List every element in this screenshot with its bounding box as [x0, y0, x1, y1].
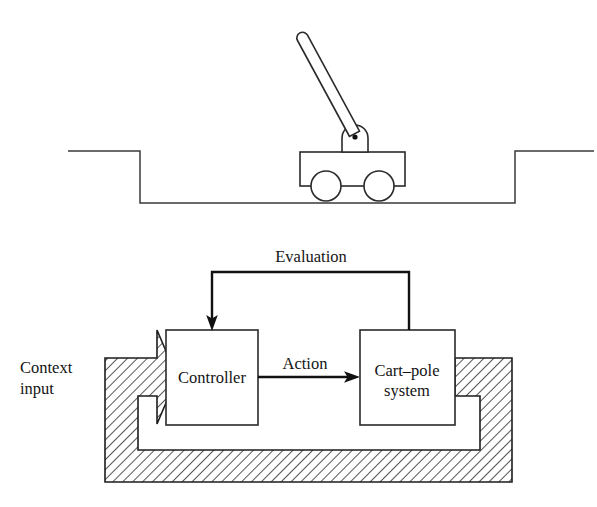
pole	[297, 32, 360, 136]
evaluation-label: Evaluation	[275, 247, 346, 266]
action-label: Action	[283, 354, 328, 373]
block-controller-label: Controller	[178, 368, 246, 387]
cart-wheel-right	[364, 171, 394, 201]
figure-root: Controller Cart–pole system Evaluation A…	[0, 0, 597, 507]
control-block-diagram: Controller Cart–pole system Evaluation A…	[20, 247, 512, 482]
cart-wheel-left	[311, 171, 341, 201]
figure-canvas: Controller Cart–pole system Evaluation A…	[0, 0, 597, 507]
context-input-label-line2: input	[20, 379, 54, 398]
context-input-label-line1: Context	[20, 358, 73, 377]
block-cart-pole-system-label-line1: Cart–pole	[374, 361, 439, 380]
cart-pole-illustration	[68, 32, 594, 203]
evaluation-path	[212, 272, 409, 330]
block-cart-pole-system-label-line2: system	[384, 381, 430, 400]
